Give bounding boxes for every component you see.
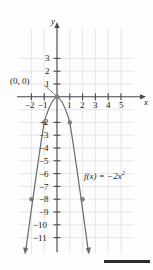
x-axis-label: x <box>144 98 148 107</box>
y-axis-label: y <box>51 17 55 26</box>
x-tick-label: 2 <box>80 101 85 110</box>
function-exponent: 2 <box>122 169 125 176</box>
data-point <box>80 197 84 201</box>
x-tick-label: 5 <box>119 101 124 110</box>
x-tick-label: −1 <box>38 101 48 110</box>
data-point <box>29 197 33 201</box>
graph-canvas <box>0 0 153 270</box>
y-tick-label: −4 <box>39 144 49 153</box>
y-tick-label: −2 <box>39 118 49 127</box>
x-tick-label: 4 <box>106 101 111 110</box>
x-tick-label: −2 <box>25 101 35 110</box>
data-point <box>68 120 72 124</box>
curve-arrow-left <box>23 247 28 254</box>
x-tick-label: 1 <box>67 101 72 110</box>
y-tick-label: −3 <box>39 131 49 140</box>
y-tick-label: −9 <box>39 208 49 217</box>
y-tick-label: 3 <box>45 54 50 63</box>
y-axis <box>54 22 61 252</box>
y-tick-label: −10 <box>33 221 47 230</box>
y-axis-arrow <box>54 22 59 28</box>
footer-rule <box>104 260 150 263</box>
origin-point-label: (0, 0) <box>10 77 30 86</box>
y-tick-label: 2 <box>45 67 50 76</box>
function-equation-text: f(x) = −2x <box>84 171 122 181</box>
y-tick-label: −8 <box>39 195 49 204</box>
curve-arrow-right <box>86 247 91 254</box>
y-tick-label: −6 <box>39 170 49 179</box>
x-tick-label: 3 <box>93 101 98 110</box>
y-tick-label: −5 <box>39 157 49 166</box>
y-tick-label: −7 <box>39 183 49 192</box>
function-equation-label: f(x) = −2x2 <box>84 170 125 181</box>
figure-container: y x (0, 0) f(x) = −2x2 −2 −1 1 2 3 4 5 3… <box>0 0 153 270</box>
y-tick-label: −11 <box>33 234 47 243</box>
y-tick-label: 1 <box>45 80 50 89</box>
